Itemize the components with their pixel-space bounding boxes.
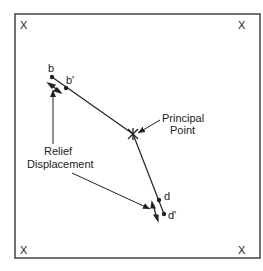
label-d-prime: d′ xyxy=(168,209,176,221)
relief-displacement-arrow-b xyxy=(48,83,61,93)
photo-frame xyxy=(15,14,260,258)
principal-point-label-line2: Point xyxy=(170,124,195,136)
radial-line-b xyxy=(52,77,133,134)
point-b-prime xyxy=(64,86,68,90)
relief-label-line1: Relief xyxy=(44,145,73,157)
fiducial-mark-top-right: X xyxy=(238,19,246,31)
fiducial-mark-top-left: X xyxy=(20,19,28,31)
fiducial-mark-bottom-left: X xyxy=(20,244,28,256)
label-d: d xyxy=(164,190,170,202)
point-d-prime xyxy=(162,212,166,216)
label-b-prime: b′ xyxy=(66,74,74,86)
principal-point-pointer-arrow xyxy=(138,120,160,133)
fiducial-mark-bottom-right: X xyxy=(238,244,246,256)
principal-point-marker xyxy=(128,128,138,140)
relief-pointer-arrow-down xyxy=(72,173,150,209)
principal-point-label-line1: Principal xyxy=(162,112,204,124)
relief-label-line2: Displacement xyxy=(27,158,94,170)
point-b xyxy=(50,75,54,79)
point-d xyxy=(157,198,161,202)
relief-displacement-diagram: X X X X b b′ d d′ Principal Point Relief… xyxy=(0,0,263,271)
label-b: b xyxy=(48,62,54,74)
relief-displacement-arrow-d xyxy=(151,202,158,221)
